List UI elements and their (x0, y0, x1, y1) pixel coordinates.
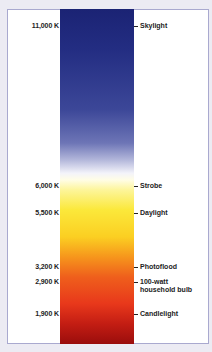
kelvin-label-5500: 5,500 K (35, 209, 59, 217)
source-label-daylight: Daylight (134, 209, 168, 217)
color-temperature-gradient-bar (60, 9, 134, 344)
tick-mark (134, 213, 138, 214)
kelvin-label-1900: 1,900 K (35, 310, 59, 318)
source-text-line1: 100-watt (140, 278, 168, 285)
tick-mark (134, 282, 138, 283)
source-text: Skylight (140, 22, 167, 29)
tick-mark (134, 314, 138, 315)
tick-mark (134, 186, 138, 187)
source-text: Daylight (140, 209, 168, 216)
source-text: Photoflood (140, 263, 177, 270)
source-label-candlelight: Candlelight (134, 310, 178, 318)
tick-mark (134, 267, 138, 268)
source-text: Candlelight (140, 310, 178, 317)
source-text-line2: household bulb (134, 286, 192, 294)
source-label-photoflood: Photoflood (134, 263, 177, 271)
tick-mark (134, 26, 138, 27)
source-label-strobe: Strobe (134, 182, 162, 190)
kelvin-label-6000: 6,000 K (35, 182, 59, 190)
source-text: Strobe (140, 182, 162, 189)
source-label-household-bulb: 100-watthousehold bulb (134, 278, 192, 294)
kelvin-label-3200: 3,200 K (35, 263, 59, 271)
kelvin-label-2900: 2,900 K (35, 278, 59, 286)
kelvin-label-11000: 11,000 K (32, 22, 59, 30)
source-label-skylight: Skylight (134, 22, 167, 30)
